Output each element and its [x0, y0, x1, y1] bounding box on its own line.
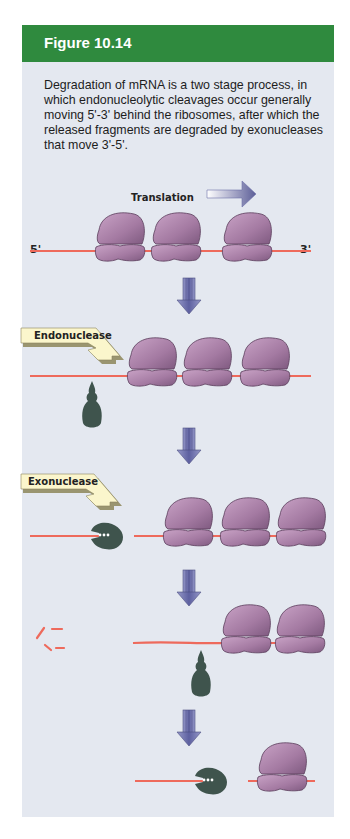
ribosome: [95, 213, 144, 261]
ribosome: [127, 338, 176, 386]
translation-direction-arrow: [207, 181, 256, 207]
down-arrow-icon: [177, 278, 201, 314]
ribosome: [220, 498, 269, 546]
stage-second-cleavage: [37, 605, 325, 697]
translation-label: Translation: [131, 192, 194, 203]
down-arrow-icon: [177, 570, 201, 606]
endonuclease-enzyme-icon: [191, 650, 211, 697]
ribosome: [240, 338, 289, 386]
endonuclease-label: Endonuclease: [34, 330, 112, 341]
stage-second-exonuclease: [135, 743, 315, 795]
mrna-degradation-diagram: Translation 5' 3' Endonuclease Exonuclea…: [0, 0, 350, 839]
ribosome: [151, 213, 200, 261]
ribosome: [163, 498, 212, 546]
exonuclease-callout: Exonuclease: [21, 474, 122, 510]
ribosome: [275, 605, 324, 653]
ribosome: [182, 338, 231, 386]
ribosome: [221, 605, 270, 653]
endonuclease-callout: Endonuclease: [21, 328, 124, 364]
down-arrow-icon: [177, 428, 201, 464]
ribosome: [257, 743, 306, 791]
exonuclease-label: Exonuclease: [28, 476, 98, 487]
ribosome: [276, 498, 325, 546]
stage-endonuclease: Endonuclease: [21, 328, 311, 428]
endonuclease-enzyme-icon: [82, 381, 102, 428]
five-prime-label: 5': [30, 243, 41, 256]
degraded-nucleotides: [37, 628, 64, 650]
stage-exonuclease: Exonuclease: [21, 474, 326, 550]
three-prime-label: 3': [300, 243, 311, 256]
ribosome: [222, 213, 271, 261]
stage-translation: Translation 5' 3': [30, 181, 311, 261]
down-arrow-icon: [177, 710, 201, 746]
